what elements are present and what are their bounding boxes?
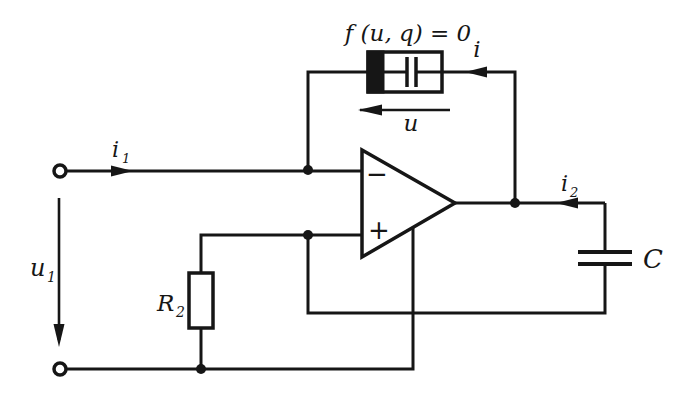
voltage-u-label: u [404,110,419,136]
current-i2-sub: 2 [569,185,578,200]
current-i1-sub: 1 [122,151,130,166]
resistor-r2-body [189,273,213,328]
input-terminal-bottom [54,363,66,375]
memcapacitor-equation-label: f (u, q) = 0 [343,20,471,46]
input-terminal-top [54,165,66,177]
opamp-noninverting-label: + [368,215,390,245]
wire-opamp-bottom-rail [60,222,413,369]
wire-feedback-right [442,72,515,203]
junction-dot-output [510,198,520,208]
junction-dot-noninverting [303,230,313,240]
wire-noninverting-input [201,235,362,273]
wire-right-rail-return [308,235,605,313]
circuit-canvas: f (u, q) = 0 i u − + i 1 u 1 i 2 R 2 C [0,0,682,408]
voltage-u1-label: u [30,254,45,282]
current-i1-label: i [112,137,119,162]
memcapacitor-polarity-bar [367,51,385,94]
wire-feedback-left [308,72,368,170]
circuit-diagram: f (u, q) = 0 i u − + i 1 u 1 i 2 R 2 C [0,0,682,408]
current-i2-label: i [561,171,568,196]
opamp-inverting-label: − [366,159,388,189]
junction-dot-bottom-rail [196,364,206,374]
i1-arrowhead [111,166,133,177]
resistor-r2-label: R [156,290,174,316]
voltage-u1-sub: 1 [47,269,56,285]
current-i-label: i [473,36,480,62]
i-arrowhead [465,67,487,78]
capacitor-c-label: C [643,244,663,274]
resistor-r2-sub: 2 [175,304,185,320]
u1-arrowhead [54,324,65,347]
junction-dot-inverting [303,165,313,175]
u-arrowhead [358,105,382,116]
